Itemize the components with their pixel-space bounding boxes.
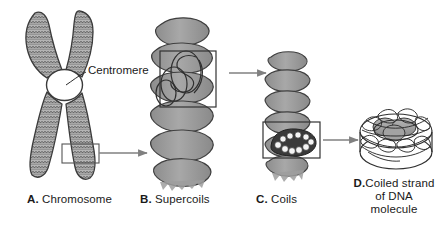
dna-nucleosome-illustration bbox=[360, 109, 432, 169]
centromere-marker bbox=[47, 70, 83, 101]
panel-label-a: A. Chromosome bbox=[27, 193, 112, 206]
panel-title-d-line1: Coiled strand bbox=[365, 177, 434, 189]
panel-label-b: B. Supercoils bbox=[140, 193, 210, 206]
panel-label-c: C. Coils bbox=[256, 193, 297, 206]
panel-title-d-line3: molecule bbox=[371, 203, 418, 215]
panel-title-c: Coils bbox=[271, 193, 297, 205]
coil-helix bbox=[265, 52, 310, 182]
panel-title-a: Chromosome bbox=[42, 193, 112, 205]
chromatid-arm-lower-right bbox=[66, 93, 95, 179]
panel-key-c: C. bbox=[256, 193, 268, 205]
panel-title-b: Supercoils bbox=[155, 193, 210, 205]
chromosome-illustration bbox=[26, 11, 95, 179]
coil-nucleosome-strand bbox=[271, 129, 316, 156]
chromatid-arm-upper-left bbox=[26, 12, 62, 78]
centromere-label: Centromere bbox=[88, 64, 149, 76]
panel-key-a: A. bbox=[27, 193, 39, 205]
coils-illustration bbox=[265, 52, 316, 182]
panel-label-d: D.Coiled strand of DNA molecule bbox=[352, 177, 436, 216]
chromatid-arm-lower-left bbox=[30, 92, 62, 177]
chromosome-structure-figure: Centromere A. Chromosome B. Supercoils C… bbox=[0, 0, 438, 229]
panel-title-d-line2: of DNA bbox=[375, 190, 413, 202]
panel-key-b: B. bbox=[140, 193, 152, 205]
panel-key-d: D. bbox=[354, 177, 366, 189]
